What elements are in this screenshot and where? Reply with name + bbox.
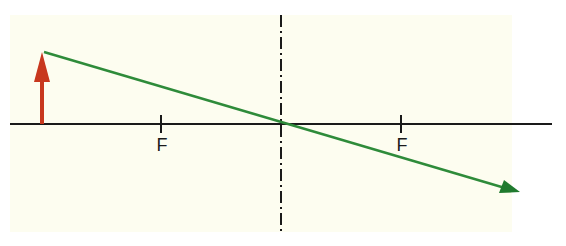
focal-label-left: F — [157, 136, 168, 154]
focal-label-right: F — [397, 136, 408, 154]
ray-diagram — [0, 0, 566, 246]
ray-arrowhead-icon — [499, 180, 520, 193]
object-arrow-icon — [34, 52, 50, 124]
